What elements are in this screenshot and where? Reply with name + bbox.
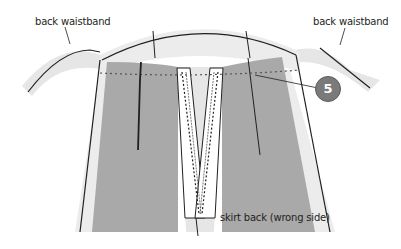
skirt-fabric-left [92,62,178,232]
label-back-waistband-left: back waistband [35,16,111,27]
leader-left [65,27,70,44]
label-back-waistband-right: back waistband [313,16,389,27]
diagram-illustration [0,0,401,249]
leader-right [340,28,345,45]
sewing-diagram: back waistband back waistband skirt back… [0,0,401,249]
label-skirt-back: skirt back (wrong side) [220,212,330,223]
step-number-badge: 5 [315,76,341,102]
